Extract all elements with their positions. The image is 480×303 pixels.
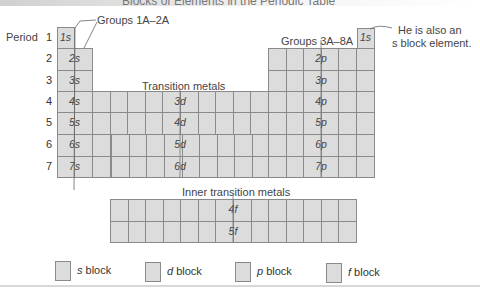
legend-d-block-swatch [145, 262, 161, 282]
bottom-divider [0, 285, 480, 287]
leader-lines [0, 0, 480, 303]
groups-1a-2a-leader-line-2 [84, 22, 97, 48]
helium-note-leader-line [370, 26, 392, 29]
legend-s-block-swatch [55, 261, 71, 281]
legend-f-block-label: f block [348, 266, 380, 278]
legend-p-block-label: p block [257, 265, 292, 277]
legend-s-block-label: s block [77, 264, 111, 276]
legend-d-block-label: d block [167, 265, 202, 277]
legend-p-block-swatch [235, 262, 251, 282]
legend-f-block-swatch [326, 263, 342, 283]
